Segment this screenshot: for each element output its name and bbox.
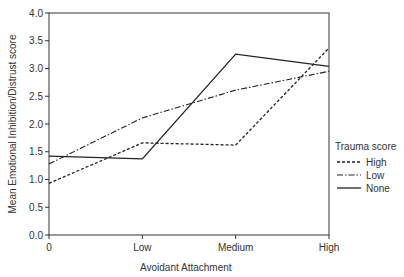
series-line-high (49, 48, 329, 183)
y-tick-label: 3.0 (29, 63, 43, 74)
x-tick-label: Medium (218, 242, 254, 253)
x-tick-label: High (319, 242, 340, 253)
y-tick-label: 0.5 (29, 202, 43, 213)
line-chart: 0.00.51.01.52.02.53.03.54.0 0LowMediumHi… (0, 0, 404, 277)
x-tick-label: Low (133, 242, 152, 253)
y-tick-label: 2.5 (29, 91, 43, 102)
plot-frame (49, 13, 329, 235)
y-tick-label: 1.5 (29, 146, 43, 157)
series-line-low (49, 71, 329, 164)
x-axis-title: Avoidant Attachment (140, 262, 232, 273)
y-tick-label: 1.0 (29, 174, 43, 185)
y-tick-label: 2.0 (29, 119, 43, 130)
x-tick-label: 0 (46, 242, 52, 253)
legend-label-none: None (366, 183, 390, 194)
y-axis: 0.00.51.01.52.02.53.03.54.0 (29, 8, 49, 241)
series-lines (49, 48, 329, 183)
x-axis: 0LowMediumHigh (46, 235, 339, 253)
legend-title: Trauma score (335, 141, 397, 152)
y-axis-title: Mean Emotional Inhibition/Distrust score (7, 34, 18, 213)
y-tick-label: 3.5 (29, 35, 43, 46)
legend: Trauma score HighLowNone (335, 141, 397, 194)
legend-label-high: High (366, 157, 387, 168)
y-tick-label: 0.0 (29, 230, 43, 241)
legend-label-low: Low (366, 170, 385, 181)
y-tick-label: 4.0 (29, 8, 43, 19)
